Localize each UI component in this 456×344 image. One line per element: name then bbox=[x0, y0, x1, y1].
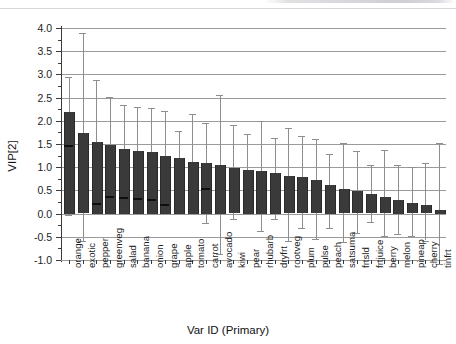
error-bar-cap-upper bbox=[436, 143, 443, 144]
bar-inner-marker bbox=[105, 196, 114, 198]
y-tick-label: -0.5 bbox=[18, 232, 52, 242]
x-tick-label: berry bbox=[388, 246, 397, 268]
bar bbox=[78, 133, 89, 213]
bar bbox=[243, 170, 254, 214]
x-tick bbox=[343, 260, 344, 264]
x-tick bbox=[302, 260, 303, 264]
x-tick bbox=[439, 260, 440, 264]
error-bar-cap-lower bbox=[257, 231, 264, 232]
bar bbox=[366, 194, 377, 213]
x-tick-label: exotic bbox=[87, 243, 96, 268]
bar bbox=[133, 151, 144, 214]
bar-inner-marker bbox=[92, 203, 101, 205]
error-bar-cap-upper bbox=[161, 111, 168, 112]
x-tick bbox=[83, 260, 84, 264]
y-tick-label: 2.5 bbox=[18, 93, 52, 103]
y-tick-label: 3.0 bbox=[18, 69, 52, 79]
y-tick-label: 2.0 bbox=[18, 116, 52, 126]
x-tick-label: onion bbox=[155, 245, 164, 268]
bar bbox=[297, 177, 308, 213]
x-tick-label: frtsld bbox=[361, 247, 370, 268]
error-bar-cap-upper bbox=[422, 163, 429, 164]
x-tick bbox=[398, 260, 399, 264]
bar bbox=[421, 205, 432, 213]
bar bbox=[215, 165, 226, 214]
error-bar-cap-upper bbox=[244, 134, 251, 135]
x-tick-label: banana bbox=[141, 236, 150, 268]
bar bbox=[256, 171, 267, 214]
x-tick-label: plum bbox=[306, 247, 315, 268]
error-bar-cap-upper bbox=[353, 151, 360, 152]
error-bar-cap-upper bbox=[148, 108, 155, 109]
x-axis-title: Var ID (Primary) bbox=[0, 324, 456, 336]
x-tick bbox=[357, 260, 358, 264]
error-bar-cap-lower bbox=[271, 219, 278, 220]
x-tick-label: carrot bbox=[210, 243, 219, 268]
vip-bar-chart: VIP[2] -1.0-0.50.00.51.01.52.02.53.03.54… bbox=[0, 0, 456, 344]
x-tick bbox=[206, 260, 207, 264]
error-bar-line bbox=[412, 167, 413, 236]
x-tick-label: dryfrt bbox=[279, 246, 288, 268]
error-bar-cap-upper bbox=[120, 105, 127, 106]
x-tick bbox=[220, 260, 221, 264]
bar bbox=[270, 173, 281, 214]
error-bar-cap-lower bbox=[381, 236, 388, 237]
x-tick-label: peach bbox=[333, 242, 342, 268]
error-bar-cap-lower bbox=[408, 236, 415, 237]
bar bbox=[174, 158, 185, 214]
bar bbox=[284, 176, 295, 213]
error-bar-cap-lower bbox=[367, 222, 374, 223]
x-tick bbox=[316, 260, 317, 264]
bar bbox=[339, 189, 350, 213]
bar bbox=[435, 210, 446, 214]
error-bar-cap-upper bbox=[285, 128, 292, 129]
error-bar-cap-upper bbox=[381, 150, 388, 151]
x-tick-label: greenveg bbox=[114, 228, 123, 268]
x-tick-label: melon bbox=[402, 242, 411, 268]
x-tick-label: tinfrt bbox=[443, 249, 452, 268]
error-bar-cap-lower bbox=[394, 234, 401, 235]
x-tick-label: orange bbox=[73, 238, 82, 268]
error-bar-line bbox=[425, 163, 426, 241]
x-tick bbox=[151, 260, 152, 264]
x-tick bbox=[69, 260, 70, 264]
plot-area bbox=[62, 28, 446, 260]
error-bar-cap-upper bbox=[394, 165, 401, 166]
bar bbox=[380, 197, 391, 213]
bar bbox=[229, 168, 240, 213]
x-tick bbox=[165, 260, 166, 264]
x-tick-label: frtjuice bbox=[375, 240, 384, 268]
error-bar-line bbox=[384, 150, 385, 236]
x-tick-label: pineap bbox=[416, 239, 425, 268]
bar-inner-marker bbox=[119, 197, 128, 199]
bar bbox=[407, 203, 418, 213]
x-tick-label: satsuma bbox=[347, 232, 356, 268]
error-bar-cap-upper bbox=[257, 121, 264, 122]
error-bar-cap-lower bbox=[326, 228, 333, 229]
x-tick-label: cherry bbox=[429, 241, 438, 268]
error-bar-cap-upper bbox=[134, 107, 141, 108]
x-tick-label: pulse bbox=[320, 245, 329, 268]
bar bbox=[325, 185, 336, 214]
x-tick-label: pepper bbox=[100, 238, 109, 268]
bar-inner-marker bbox=[201, 188, 210, 190]
x-tick-label: tomato bbox=[196, 239, 205, 268]
x-tick-label: pear bbox=[251, 249, 260, 268]
error-bar-cap-lower bbox=[312, 239, 319, 240]
x-tick-label: avocado bbox=[224, 232, 233, 268]
error-bar-cap-upper bbox=[408, 167, 415, 168]
error-bar-cap-upper bbox=[216, 95, 223, 96]
error-bar-cap-upper bbox=[93, 80, 100, 81]
y-tick-label: -1.0 bbox=[18, 255, 52, 265]
error-bar-cap-upper bbox=[340, 143, 347, 144]
error-bar-cap-upper bbox=[175, 131, 182, 132]
bar bbox=[352, 191, 363, 213]
y-tick-label: 0.0 bbox=[18, 209, 52, 219]
x-tick bbox=[261, 260, 262, 264]
error-bar-cap-upper bbox=[271, 138, 278, 139]
y-tick-label: 4.0 bbox=[18, 23, 52, 33]
y-tick-label: 1.5 bbox=[18, 139, 52, 149]
error-bar-cap-upper bbox=[367, 165, 374, 166]
bar-inner-marker bbox=[64, 145, 73, 147]
x-tick-label: kiwi bbox=[237, 252, 246, 268]
